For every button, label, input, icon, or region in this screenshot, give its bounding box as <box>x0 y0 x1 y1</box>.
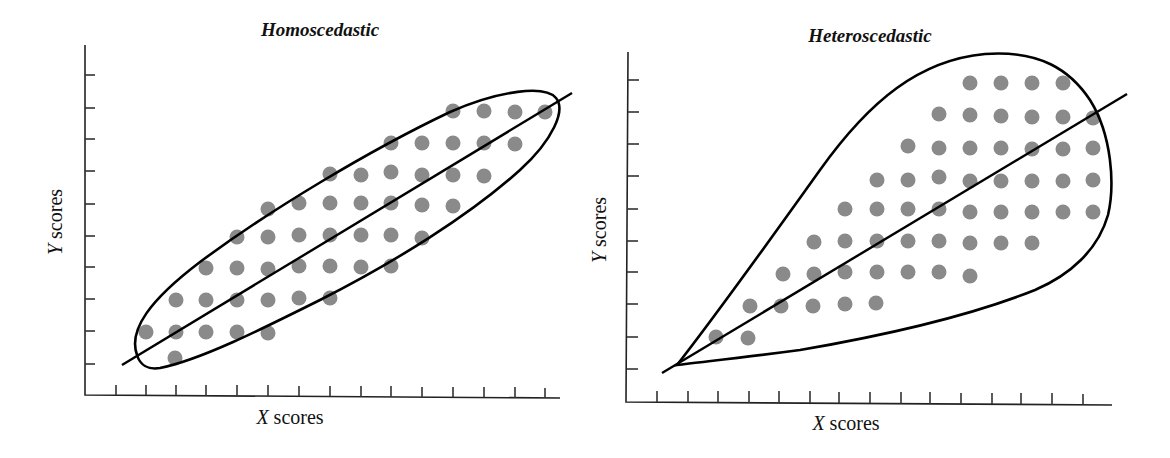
y-axis-label-heteroscedastic: Y scores <box>588 197 610 263</box>
y-ticks-homoscedastic <box>85 75 95 364</box>
x-axis-label-heteroscedastic: X scores <box>811 412 879 434</box>
panel-homoscedastic: Homoscedastic <box>44 19 572 428</box>
y-axis-label-homoscedastic: Y scores <box>44 189 66 255</box>
x-axis-label-homoscedastic: X scores <box>255 406 323 428</box>
y-ticks-heteroscedastic <box>627 80 639 369</box>
panel-title-heteroscedastic: Heteroscedastic <box>807 25 932 46</box>
envelope-fan-heteroscedastic <box>677 53 1111 365</box>
figure: Homoscedastic <box>0 0 1170 458</box>
panel-title-homoscedastic: Homoscedastic <box>260 19 380 40</box>
panel-heteroscedastic: Heteroscedastic <box>588 25 1127 434</box>
regression-line-homoscedastic <box>122 93 572 365</box>
data-points-heteroscedastic <box>709 76 1101 346</box>
